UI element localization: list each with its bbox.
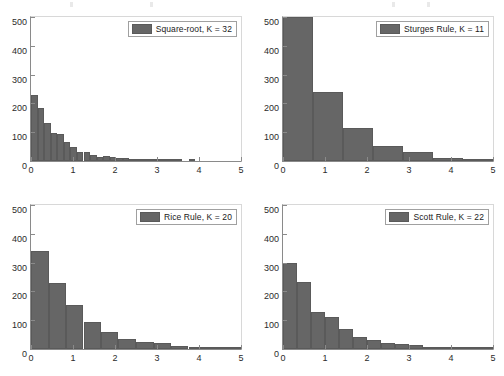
y-axis-tick-label: 300 [12, 75, 27, 84]
legend-scott-rule: Scott Rule, K = 22 [385, 209, 489, 225]
legend-label: Rice Rule, K = 20 [164, 213, 232, 222]
panel-rice-rule: Rice Rule, K = 20 0100200300400500012345 [0, 188, 252, 376]
legend-swatch-icon [140, 212, 160, 222]
histogram-bar [479, 347, 493, 349]
plot-area-square-root [31, 17, 241, 161]
y-axis-tick-label: 0 [274, 162, 279, 171]
histogram-bar [353, 337, 367, 349]
x-axis-tick-mark [409, 345, 410, 349]
histogram-bar [373, 146, 403, 161]
y-axis-tick-label: 100 [12, 133, 27, 142]
x-axis-tick-label: 5 [490, 354, 495, 363]
x-axis-tick-mark [367, 345, 368, 349]
legend-rice-rule: Rice Rule, K = 20 [136, 209, 237, 225]
y-axis-tick-label: 200 [264, 104, 279, 113]
y-axis-tick-mark [31, 103, 35, 104]
y-axis-tick-label: 500 [264, 18, 279, 27]
axes-scott-rule: Scott Rule, K = 22 010020030040050001234… [282, 204, 494, 350]
legend-swatch-icon [389, 212, 409, 222]
y-axis-tick-mark [283, 263, 287, 264]
x-axis-tick-label: 1 [70, 354, 75, 363]
histogram-bar [367, 340, 381, 349]
histogram-bar [313, 92, 343, 161]
y-axis-tick-label: 500 [12, 18, 27, 27]
bar-series-rice-rule [31, 205, 241, 349]
x-axis-tick-mark [451, 157, 452, 161]
y-axis-tick-label: 100 [264, 133, 279, 142]
x-axis-tick-mark [367, 157, 368, 161]
caption-artifact [0, 0, 252, 9]
histogram-bar [395, 344, 409, 349]
y-axis-tick-mark [283, 132, 287, 133]
histogram-bar [169, 159, 176, 161]
histogram-bar [189, 347, 207, 349]
y-axis-tick-label: 200 [12, 292, 27, 301]
y-axis-tick-mark [283, 291, 287, 292]
x-axis-tick-mark [241, 157, 242, 161]
axes-square-root: Square-root, K = 32 01002003004005000123… [30, 16, 242, 162]
y-axis-tick-mark [283, 103, 287, 104]
histogram-bar [90, 155, 97, 161]
histogram-bar [343, 128, 373, 161]
y-axis-tick-mark [283, 234, 287, 235]
x-axis-tick-mark [283, 157, 284, 161]
x-axis-tick-label: 1 [322, 354, 327, 363]
y-axis-tick-label: 100 [12, 321, 27, 330]
histogram-bar [297, 282, 311, 349]
y-axis-tick-label: 100 [264, 321, 279, 330]
histogram-bar [49, 283, 66, 349]
y-axis-tick-label: 300 [264, 75, 279, 84]
y-axis-tick-mark [31, 263, 35, 264]
histogram-bar [339, 329, 353, 349]
x-axis-tick-label: 1 [70, 166, 75, 175]
histogram-bar [206, 347, 223, 349]
x-axis-tick-label: 0 [280, 166, 285, 175]
y-axis-tick-mark [31, 46, 35, 47]
y-axis-tick-mark [31, 161, 35, 162]
legend-label: Square-root, K = 32 [156, 25, 232, 34]
y-axis-tick-mark [283, 161, 287, 162]
histogram-bar [423, 347, 437, 349]
x-axis-tick-label: 5 [238, 354, 243, 363]
bar-series-square-root [31, 17, 241, 161]
histogram-bar [403, 152, 433, 161]
legend-square-root: Square-root, K = 32 [128, 21, 237, 37]
plot-area-scott-rule [283, 205, 493, 349]
plot-area-sturges-rule [283, 17, 493, 161]
caption-artifact-mark [150, 2, 153, 7]
y-axis-tick-label: 200 [12, 104, 27, 113]
y-axis-tick-mark [31, 234, 35, 235]
histogram-bar [433, 158, 463, 161]
x-axis-tick-label: 4 [196, 166, 201, 175]
histogram-bar [283, 17, 313, 161]
caption-artifact-mark [392, 2, 395, 7]
x-axis-tick-mark [325, 157, 326, 161]
y-axis-tick-label: 500 [12, 206, 27, 215]
y-axis-tick-mark [31, 291, 35, 292]
y-axis-tick-mark [31, 17, 35, 18]
x-axis-tick-mark [31, 345, 32, 349]
histogram-bar [381, 343, 395, 349]
panel-sturges-rule: Sturges Rule, K = 11 0100200300400500012… [252, 0, 504, 188]
x-axis-tick-label: 2 [112, 166, 117, 175]
plot-area-rice-rule [31, 205, 241, 349]
x-axis-tick-mark [241, 345, 242, 349]
histogram-bar [409, 345, 423, 349]
legend-label: Scott Rule, K = 22 [413, 213, 484, 222]
histogram-bar [325, 317, 339, 349]
histogram-bar [64, 142, 71, 161]
x-axis-tick-mark [31, 157, 32, 161]
x-axis-tick-mark [283, 345, 284, 349]
x-axis-tick-label: 1 [322, 166, 327, 175]
x-axis-tick-mark [199, 157, 200, 161]
y-axis-tick-mark [31, 205, 35, 206]
y-axis-tick-label: 0 [274, 350, 279, 359]
histogram-bar [175, 159, 182, 161]
x-axis-tick-mark [493, 345, 494, 349]
x-axis-tick-mark [325, 345, 326, 349]
y-axis-tick-mark [283, 320, 287, 321]
histogram-bar [189, 159, 196, 161]
histogram-bar [463, 159, 493, 161]
x-axis-tick-label: 4 [448, 354, 453, 363]
x-axis-tick-mark [157, 345, 158, 349]
